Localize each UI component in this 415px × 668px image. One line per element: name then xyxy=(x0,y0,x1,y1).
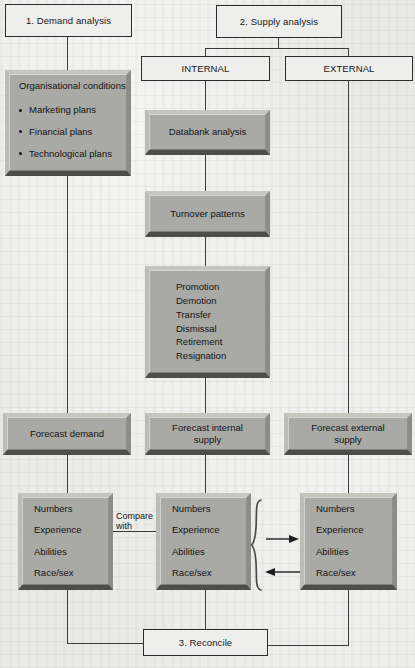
node-reconcile[interactable]: 3. Reconcile xyxy=(143,629,268,656)
org-item-label: Marketing plans xyxy=(29,104,96,116)
node-turnover-events[interactable]: Promotion Demotion Transfer Dismissal Re… xyxy=(145,266,270,378)
node-internal[interactable]: INTERNAL xyxy=(141,56,270,81)
arrow-right-icon xyxy=(266,533,300,545)
line-bus-to-external xyxy=(348,48,349,56)
node-demand-analysis-label: 1. Demand analysis xyxy=(26,15,111,26)
line-demand-to-org xyxy=(67,37,68,71)
line-events-to-forecast-internal xyxy=(205,378,206,413)
node-demand-analysis[interactable]: 1. Demand analysis xyxy=(5,4,132,37)
node-forecast-external-supply[interactable]: Forecast external supply xyxy=(284,413,412,455)
org-item-label: Technological plans xyxy=(29,148,112,160)
external-supply-attributes-body: Numbers Experience Abilities Race/sex xyxy=(304,497,393,585)
attribute-label: Abilities xyxy=(316,546,349,558)
line-forecast-demand-to-attrs xyxy=(67,455,68,493)
line-bus-to-internal xyxy=(205,48,206,56)
line-turnover-to-events xyxy=(205,237,206,266)
attribute-label: Abilities xyxy=(172,546,205,558)
node-external-label: EXTERNAL xyxy=(324,63,375,74)
bullet-icon xyxy=(19,152,22,155)
attribute-label: Numbers xyxy=(316,503,355,515)
forecast-internal-supply-body: Forecast internal supply xyxy=(149,417,266,450)
line-internal-to-databank xyxy=(205,81,206,110)
line-right-attrs-to-reconcile xyxy=(267,645,349,646)
demand-attributes-body: Numbers Experience Abilities Race/sex xyxy=(22,497,109,585)
forecast-internal-supply-label-1: Forecast internal xyxy=(172,422,243,434)
forecast-demand-label: Forecast demand xyxy=(30,428,104,440)
attribute-label: Race/sex xyxy=(316,567,356,579)
forecast-demand-body: Forecast demand xyxy=(7,417,127,450)
node-internal-supply-attributes[interactable]: Numbers Experience Abilities Race/sex xyxy=(156,493,251,590)
list-item: Technological plans xyxy=(19,148,112,160)
bullet-icon xyxy=(19,130,22,133)
compare-with-label-line1: Compare xyxy=(116,511,156,521)
node-supply-analysis-label: 2. Supply analysis xyxy=(240,16,318,27)
turnover-event-label: Dismissal xyxy=(176,322,217,336)
bullet-icon xyxy=(19,109,22,112)
line-org-to-forecast-demand xyxy=(67,175,68,413)
node-supply-analysis[interactable]: 2. Supply analysis xyxy=(216,5,342,38)
line-forecast-external-to-attrs xyxy=(348,455,349,493)
line-external-to-forecast-external xyxy=(348,81,349,413)
list-item: Marketing plans xyxy=(19,104,96,116)
attribute-label: Abilities xyxy=(34,546,67,558)
compare-with-label-line2: with xyxy=(116,521,156,531)
line-databank-to-turnover xyxy=(205,155,206,191)
node-external-supply-attributes[interactable]: Numbers Experience Abilities Race/sex xyxy=(300,493,397,590)
forecast-external-supply-body: Forecast external supply xyxy=(288,417,408,450)
diagram-canvas: 1. Demand analysis 2. Supply analysis IN… xyxy=(0,0,415,668)
node-demand-attributes[interactable]: Numbers Experience Abilities Race/sex xyxy=(18,493,113,590)
attribute-label: Experience xyxy=(316,524,364,536)
forecast-internal-supply-label-2: supply xyxy=(194,434,221,446)
line-forecast-internal-to-attrs xyxy=(205,455,206,493)
compare-with-label: Compare with xyxy=(116,511,156,532)
line-supply-bus xyxy=(205,48,349,49)
node-reconcile-label: 3. Reconcile xyxy=(179,637,232,648)
turnover-event-label: Retirement xyxy=(176,335,222,349)
node-databank-analysis[interactable]: Databank analysis xyxy=(145,110,270,155)
node-organisational-conditions[interactable]: Organisational conditions Marketing plan… xyxy=(5,70,131,176)
attribute-label: Race/sex xyxy=(172,567,212,579)
forecast-external-supply-label-2: supply xyxy=(334,434,361,446)
turnover-patterns-body: Turnover patterns xyxy=(149,195,266,232)
attribute-label: Numbers xyxy=(34,503,73,515)
organisational-conditions-body: Organisational conditions Marketing plan… xyxy=(9,74,127,171)
attribute-label: Race/sex xyxy=(34,567,74,579)
line-right-attrs-down xyxy=(348,590,349,645)
attribute-label: Numbers xyxy=(172,503,211,515)
turnover-event-label: Demotion xyxy=(176,294,217,308)
line-left-attrs-down xyxy=(67,590,68,643)
forecast-external-supply-label-1: Forecast external xyxy=(311,422,384,434)
list-item: Financial plans xyxy=(19,126,92,138)
internal-supply-attributes-body: Numbers Experience Abilities Race/sex xyxy=(160,497,247,585)
node-external[interactable]: EXTERNAL xyxy=(285,56,413,81)
turnover-event-label: Resignation xyxy=(176,349,226,363)
line-supply-down xyxy=(278,38,279,48)
line-mid-attrs-to-reconcile xyxy=(205,590,206,630)
attribute-label: Experience xyxy=(34,524,82,536)
org-item-label: Financial plans xyxy=(29,126,92,138)
turnover-event-label: Transfer xyxy=(176,308,211,322)
node-forecast-demand[interactable]: Forecast demand xyxy=(3,413,131,455)
node-turnover-patterns[interactable]: Turnover patterns xyxy=(145,191,270,237)
line-left-attrs-to-reconcile xyxy=(67,643,143,644)
databank-analysis-label: Databank analysis xyxy=(169,126,247,138)
turnover-patterns-label: Turnover patterns xyxy=(170,208,245,220)
attribute-label: Experience xyxy=(172,524,220,536)
databank-analysis-body: Databank analysis xyxy=(149,114,266,150)
turnover-events-body: Promotion Demotion Transfer Dismissal Re… xyxy=(149,270,266,373)
node-forecast-internal-supply[interactable]: Forecast internal supply xyxy=(145,413,270,455)
arrow-left-icon xyxy=(263,566,300,578)
node-internal-label: INTERNAL xyxy=(182,63,230,74)
turnover-event-label: Promotion xyxy=(176,280,219,294)
organisational-conditions-title: Organisational conditions xyxy=(19,80,126,92)
